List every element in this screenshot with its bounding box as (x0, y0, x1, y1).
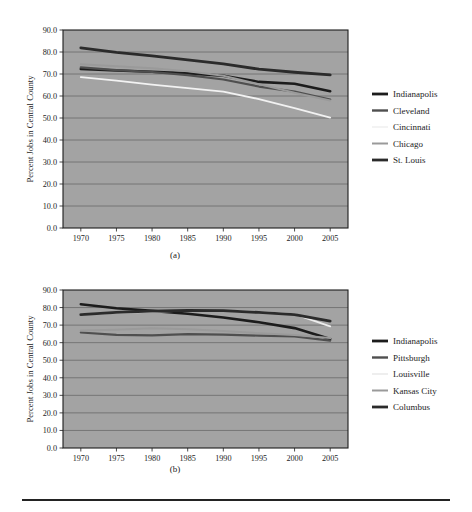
x-axis-tick-label: 1990 (215, 454, 231, 463)
y-axis-tick-label: 90.0 (43, 26, 57, 35)
y-axis-title: Percent Jobs in Central County (25, 75, 35, 183)
x-axis-tick-label: 1980 (144, 234, 160, 243)
x-axis-title: Year (198, 246, 214, 248)
y-axis-tick-label: 80.0 (43, 304, 57, 313)
x-axis-tick-label: 1990 (215, 234, 231, 243)
y-axis-tick-label: 50.0 (43, 114, 57, 123)
legend-label: Indianapolis (393, 336, 438, 346)
caption-b: (b) (0, 464, 350, 474)
y-axis-tick-label: 40.0 (43, 136, 57, 145)
footer-divider (22, 499, 450, 501)
x-axis-tick-label: 2000 (286, 234, 302, 243)
y-axis-tick-label: 60.0 (43, 339, 57, 348)
y-axis-tick-label: 20.0 (43, 409, 57, 418)
plot-area (63, 30, 348, 228)
caption-a: (a) (0, 250, 350, 260)
line-chart-a: 0.010.020.030.040.050.060.070.080.090.01… (0, 8, 472, 248)
y-axis-tick-label: 30.0 (43, 391, 57, 400)
chart-a-canvas: 0.010.020.030.040.050.060.070.080.090.01… (0, 8, 472, 248)
y-axis-tick-label: 0.0 (47, 224, 57, 233)
y-axis-tick-label: 20.0 (43, 180, 57, 189)
y-axis-tick-label: 80.0 (43, 48, 57, 57)
legend-label: St. Louis (393, 155, 426, 165)
x-axis-tick-label: 1970 (73, 454, 89, 463)
legend-label: Cincinnati (393, 122, 431, 132)
legend-label: Indianapolis (393, 89, 438, 99)
x-axis-tick-label: 2005 (322, 234, 338, 243)
x-axis-tick-label: 1985 (180, 234, 196, 243)
y-axis-tick-label: 90.0 (43, 286, 57, 295)
x-axis-tick-label: 1975 (108, 234, 124, 243)
y-axis-tick-label: 60.0 (43, 92, 57, 101)
figure-page: 0.010.020.030.040.050.060.070.080.090.01… (0, 0, 472, 512)
x-axis-tick-label: 1975 (108, 454, 124, 463)
legend-label: Louisville (393, 369, 430, 379)
x-axis-tick-label: 1985 (180, 454, 196, 463)
legend-label: Columbus (393, 402, 431, 412)
y-axis-tick-label: 70.0 (43, 321, 57, 330)
legend-label: Cleveland (393, 106, 430, 116)
y-axis-tick-label: 40.0 (43, 374, 57, 383)
legend-label: Kansas City (393, 386, 437, 396)
x-axis-tick-label: 1980 (144, 454, 160, 463)
x-axis-tick-label: 1995 (251, 234, 267, 243)
legend-label: Pittsburgh (393, 353, 430, 363)
chart-b-canvas: 0.010.020.030.040.050.060.070.080.090.01… (0, 268, 472, 468)
y-axis-tick-label: 10.0 (43, 426, 57, 435)
y-axis-title: Percent Jobs in Central County (25, 315, 35, 423)
x-axis-tick-label: 1995 (251, 454, 267, 463)
line-chart-b: 0.010.020.030.040.050.060.070.080.090.01… (0, 268, 472, 468)
y-axis-tick-label: 0.0 (47, 444, 57, 453)
y-axis-tick-label: 50.0 (43, 356, 57, 365)
legend-label: Chicago (393, 139, 423, 149)
y-axis-tick-label: 70.0 (43, 70, 57, 79)
y-axis-tick-label: 10.0 (43, 202, 57, 211)
chart-figure-a: 0.010.020.030.040.050.060.070.080.090.01… (0, 8, 472, 258)
chart-figure-b: 0.010.020.030.040.050.060.070.080.090.01… (0, 268, 472, 480)
x-axis-tick-label: 1970 (73, 234, 89, 243)
x-axis-tick-label: 2005 (322, 454, 338, 463)
x-axis-tick-label: 2000 (286, 454, 302, 463)
y-axis-tick-label: 30.0 (43, 158, 57, 167)
